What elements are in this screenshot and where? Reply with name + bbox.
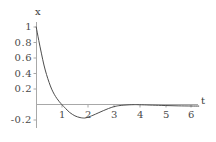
x-tick-label-2: 2 bbox=[85, 110, 92, 120]
x-tick-label-5: 5 bbox=[163, 110, 170, 120]
x-tick-label-3: 3 bbox=[111, 110, 118, 120]
y-tick-label-0.6: 0.6 bbox=[15, 53, 32, 63]
y-tick-label-0.2: 0.2 bbox=[15, 84, 32, 94]
plot-canvas bbox=[0, 0, 216, 142]
y-axis-label: x bbox=[35, 7, 41, 17]
y-tick-label--0.2: -0.2 bbox=[11, 115, 32, 125]
plot-figure: 1 0.8 0.6 0.4 0.2 -0.2 1 2 3 4 5 6 x t bbox=[0, 0, 216, 142]
x-tick-label-4: 4 bbox=[137, 110, 144, 120]
x-tick-label-6: 6 bbox=[188, 110, 195, 120]
y-tick-label-1: 1 bbox=[25, 22, 32, 32]
y-tick-label-0.4: 0.4 bbox=[15, 69, 32, 79]
x-axis-label: t bbox=[201, 96, 205, 106]
x-tick-label-1: 1 bbox=[59, 110, 66, 120]
y-tick-label-0.8: 0.8 bbox=[15, 38, 32, 48]
